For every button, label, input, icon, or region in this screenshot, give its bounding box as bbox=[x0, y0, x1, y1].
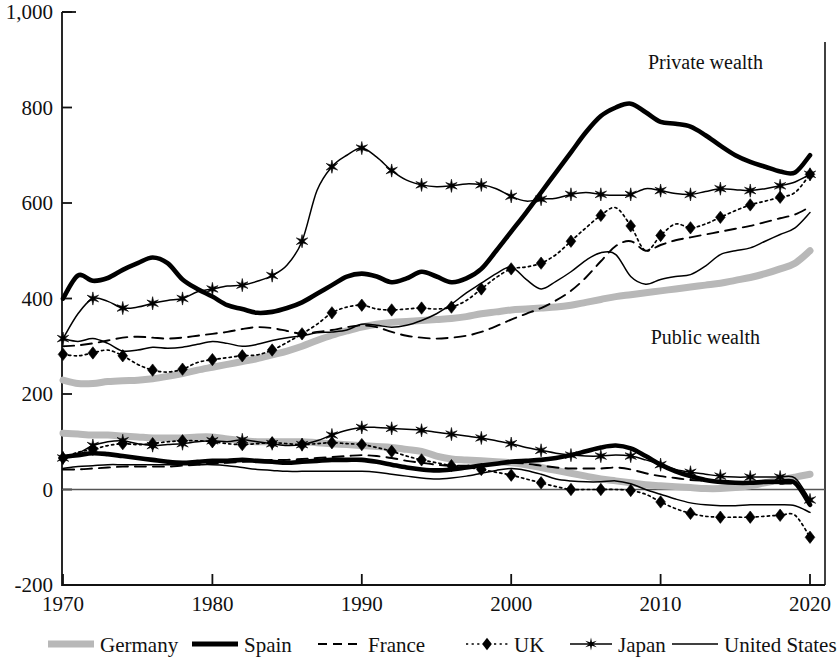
legend-item-uk[interactable]: UK bbox=[466, 633, 544, 657]
legend-item-spain[interactable]: Spain bbox=[192, 633, 292, 657]
legend-item-france[interactable]: France bbox=[318, 633, 425, 657]
x-tick-label: 1990 bbox=[341, 592, 383, 616]
x-tick-label: 2020 bbox=[789, 592, 831, 616]
y-tick-label: 400 bbox=[22, 287, 54, 311]
x-tick-label: 2010 bbox=[640, 592, 682, 616]
legend-item-germany[interactable]: Germany bbox=[48, 633, 179, 657]
annotation-private-wealth: Private wealth bbox=[648, 51, 763, 73]
chart-legend: GermanySpainFranceUKJapanUnited States bbox=[48, 633, 837, 657]
series-spain-private bbox=[63, 104, 810, 313]
legend-label: UK bbox=[514, 633, 544, 657]
x-tick-label: 1970 bbox=[42, 592, 84, 616]
x-tick-label: 2000 bbox=[490, 592, 532, 616]
y-tick-label: 1,000 bbox=[6, 0, 53, 24]
legend-marker-diamond bbox=[482, 638, 492, 650]
series-layer bbox=[57, 104, 815, 544]
y-tick-label: 0 bbox=[43, 478, 54, 502]
annotation-public-wealth: Public wealth bbox=[651, 326, 760, 348]
legend-label: Germany bbox=[100, 633, 179, 657]
series-japan-private bbox=[57, 141, 815, 345]
legend-label: France bbox=[368, 633, 425, 657]
chart-axes bbox=[62, 12, 825, 585]
x-axis-ticks: 197019801990200020102020 bbox=[42, 574, 831, 616]
legend-label: United States bbox=[724, 633, 837, 657]
wealth-line-chart: 1,0008006004002000-200197019801990200020… bbox=[0, 0, 839, 668]
legend-label: Japan bbox=[618, 633, 666, 657]
chart-container: 1,0008006004002000-200197019801990200020… bbox=[0, 0, 839, 668]
legend-label: Spain bbox=[244, 633, 292, 657]
y-tick-label: 800 bbox=[22, 96, 54, 120]
y-tick-label: 600 bbox=[22, 191, 54, 215]
x-tick-label: 1980 bbox=[191, 592, 233, 616]
y-tick-label: 200 bbox=[22, 382, 54, 406]
legend-item-united-states[interactable]: United States bbox=[672, 633, 837, 657]
legend-item-japan[interactable]: Japan bbox=[570, 633, 666, 657]
